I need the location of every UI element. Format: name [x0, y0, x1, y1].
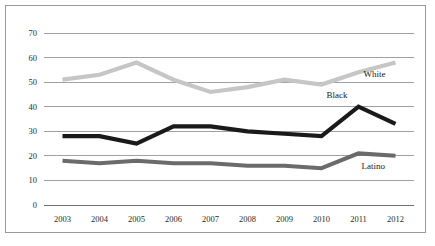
series-lines-group	[63, 62, 396, 168]
y-tick-label-60: 60	[29, 53, 38, 63]
x-tick-label-2011: 2011	[350, 214, 367, 224]
y-tick-label-50: 50	[29, 77, 38, 87]
series-label-black: Black	[327, 90, 348, 100]
series-label-white: White	[364, 69, 386, 79]
x-tick-label-2010: 2010	[313, 214, 330, 224]
x-tick-label-2005: 2005	[128, 214, 145, 224]
x-tick-label-2008: 2008	[239, 214, 256, 224]
gridlines-group	[44, 33, 414, 205]
x-tick-label-2004: 2004	[91, 214, 109, 224]
y-tick-label-70: 70	[29, 28, 38, 38]
x-tick-label-2009: 2009	[276, 214, 293, 224]
plot-area: 010203040506070 200320042005200620072008…	[0, 0, 435, 246]
series-line-white	[63, 62, 396, 91]
y-tick-label-40: 40	[29, 102, 38, 112]
chart-figure: 010203040506070 200320042005200620072008…	[0, 0, 435, 246]
x-axis-tick-labels: 2003200420052006200720082009201020112012	[54, 214, 404, 224]
x-tick-label-2012: 2012	[387, 214, 404, 224]
series-line-black	[63, 107, 396, 144]
y-tick-label-30: 30	[29, 126, 38, 136]
line-chart: 010203040506070 200320042005200620072008…	[0, 0, 435, 246]
y-tick-label-20: 20	[29, 151, 38, 161]
x-tick-label-2003: 2003	[54, 214, 71, 224]
series-label-latino: Latino	[362, 161, 386, 171]
y-tick-label-10: 10	[29, 175, 38, 185]
x-tick-label-2007: 2007	[202, 214, 219, 224]
y-tick-label-0: 0	[33, 200, 37, 210]
y-axis-tick-labels: 010203040506070	[29, 28, 38, 210]
x-tick-label-2006: 2006	[165, 214, 182, 224]
